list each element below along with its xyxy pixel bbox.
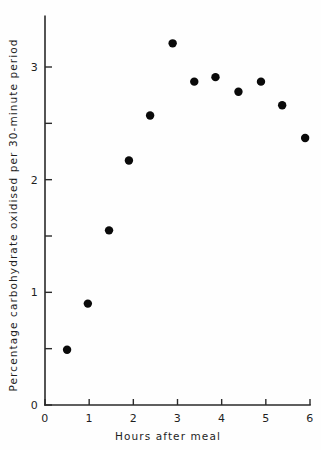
data-point bbox=[105, 226, 113, 234]
tick-labels-group: 01234560123 bbox=[31, 61, 314, 425]
x-tick-label: 3 bbox=[174, 412, 181, 425]
data-point bbox=[125, 156, 133, 164]
data-point bbox=[146, 111, 154, 119]
data-point bbox=[211, 73, 219, 81]
data-point bbox=[168, 39, 176, 47]
y-tick-label: 0 bbox=[31, 399, 38, 412]
y-tick-label: 1 bbox=[31, 286, 38, 299]
x-axis-title: Hours after meal bbox=[115, 430, 221, 442]
x-tick-label: 2 bbox=[130, 412, 137, 425]
y-tick-label: 3 bbox=[31, 61, 38, 74]
axes-group bbox=[45, 16, 310, 405]
x-tick-label: 6 bbox=[306, 412, 313, 425]
scatter-plot: 01234560123 Hours after meal Percentage … bbox=[0, 0, 321, 450]
ticks-group bbox=[45, 67, 310, 405]
data-point bbox=[84, 299, 92, 307]
data-point bbox=[257, 77, 265, 85]
y-tick-label: 2 bbox=[31, 174, 38, 187]
x-tick-label: 5 bbox=[262, 412, 269, 425]
data-point bbox=[63, 346, 71, 354]
data-points-group bbox=[63, 39, 309, 354]
chart-figure: 01234560123 Hours after meal Percentage … bbox=[0, 0, 321, 450]
x-tick-label: 1 bbox=[86, 412, 93, 425]
data-point bbox=[234, 88, 242, 96]
x-tick-label: 4 bbox=[218, 412, 225, 425]
data-point bbox=[301, 134, 309, 142]
y-axis-title: Percentage carbohydrate oxidised per 30-… bbox=[7, 38, 19, 391]
data-point bbox=[190, 77, 198, 85]
data-point bbox=[278, 101, 286, 109]
x-tick-label: 0 bbox=[41, 412, 48, 425]
